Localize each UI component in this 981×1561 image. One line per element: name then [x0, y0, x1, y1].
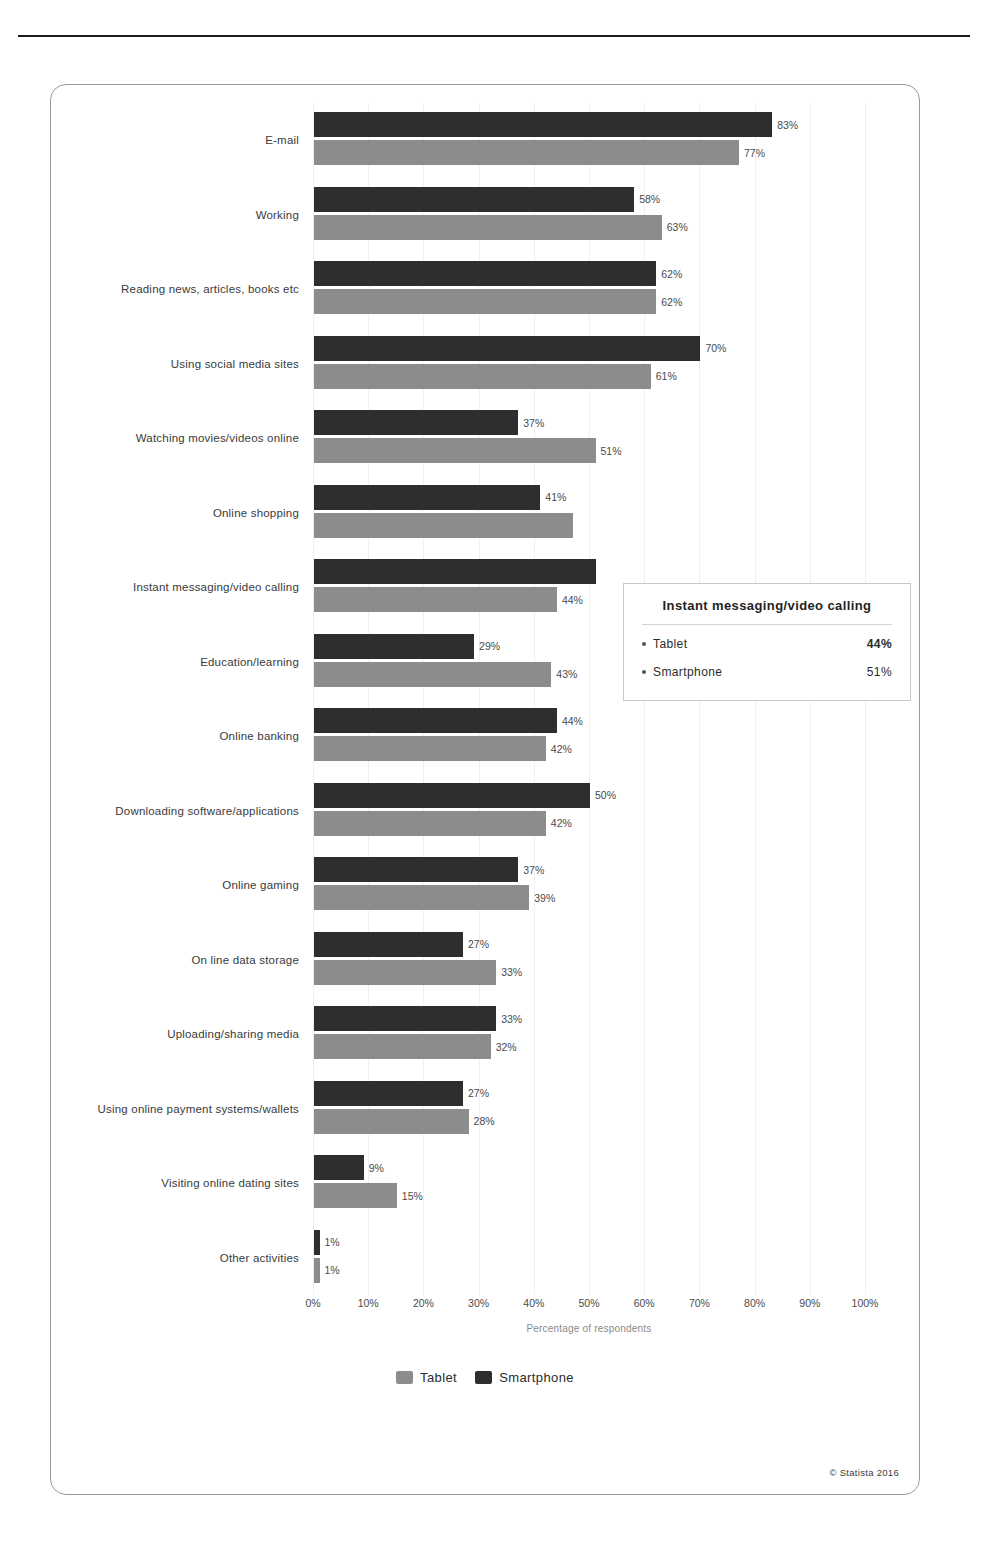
bar-value-label: 1% — [325, 1264, 340, 1276]
tooltip-rows: Tablet44%Smartphone51% — [642, 630, 892, 686]
copyright-notice: © Statista 2016 — [829, 1467, 899, 1478]
bar-value-label: 28% — [474, 1115, 495, 1127]
legend-item[interactable]: Tablet — [396, 1370, 457, 1385]
bar-value-label: 58% — [639, 193, 660, 205]
bar-value-label: 29% — [479, 640, 500, 652]
bar-value-label: 63% — [667, 221, 688, 233]
x-tick-label: 30% — [468, 1297, 489, 1309]
bar-tablet[interactable]: 77% — [314, 140, 739, 165]
bar-tablet[interactable]: 51% — [314, 438, 596, 463]
bar-tablet[interactable] — [314, 513, 573, 538]
bar-smartphone[interactable]: 27% — [314, 932, 463, 957]
bar-tablet[interactable]: 62% — [314, 289, 656, 314]
bar-tablet[interactable]: 42% — [314, 811, 546, 836]
bar-value-label: 44% — [562, 594, 583, 606]
bar-row[interactable]: Online shopping41% — [313, 476, 865, 551]
category-label: Using social media sites — [171, 358, 299, 370]
bar-row[interactable]: E-mail83%77% — [313, 103, 865, 178]
category-label: Education/learning — [200, 656, 299, 668]
bar-row[interactable]: Working58%63% — [313, 178, 865, 253]
bar-value-label: 42% — [551, 743, 572, 755]
bar-value-label: 70% — [705, 342, 726, 354]
bar-row[interactable]: Online banking44%42% — [313, 699, 865, 774]
x-tick-label: 90% — [799, 1297, 820, 1309]
bar-tablet[interactable]: 61% — [314, 364, 651, 389]
bar-row[interactable]: Online gaming37%39% — [313, 848, 865, 923]
bar-smartphone[interactable]: 29% — [314, 634, 474, 659]
bar-value-label: 39% — [534, 892, 555, 904]
bar-row[interactable]: Downloading software/applications50%42% — [313, 774, 865, 849]
bar-row[interactable]: Other activities1%1% — [313, 1221, 865, 1296]
x-tick-label: 100% — [852, 1297, 879, 1309]
bar-smartphone[interactable]: 27% — [314, 1081, 463, 1106]
bar-tablet[interactable]: 39% — [314, 885, 529, 910]
bar-value-label: 43% — [556, 668, 577, 680]
bar-tablet[interactable]: 1% — [314, 1258, 320, 1283]
bar-value-label: 27% — [468, 1087, 489, 1099]
bar-row[interactable]: Uploading/sharing media33%32% — [313, 997, 865, 1072]
bar-tablet[interactable]: 43% — [314, 662, 551, 687]
bar-smartphone[interactable]: 58% — [314, 187, 634, 212]
bar-smartphone[interactable]: 50% — [314, 783, 590, 808]
bar-row[interactable]: On line data storage27%33% — [313, 923, 865, 998]
bar-smartphone[interactable]: 37% — [314, 410, 518, 435]
category-label: E-mail — [265, 134, 299, 146]
bar-smartphone[interactable]: 70% — [314, 336, 700, 361]
tooltip-series-name: Tablet — [642, 637, 687, 651]
bar-tablet[interactable]: 28% — [314, 1109, 469, 1134]
bar-smartphone[interactable] — [314, 559, 596, 584]
category-label: Uploading/sharing media — [167, 1028, 299, 1040]
bar-row[interactable]: Reading news, articles, books etc62%62% — [313, 252, 865, 327]
data-tooltip: Instant messaging/video calling Tablet44… — [623, 583, 911, 701]
bar-row[interactable]: Using social media sites70%61% — [313, 327, 865, 402]
bar-tablet[interactable]: 32% — [314, 1034, 491, 1059]
bar-smartphone[interactable]: 1% — [314, 1230, 320, 1255]
bar-value-label: 51% — [601, 445, 622, 457]
tooltip-title: Instant messaging/video calling — [642, 598, 892, 624]
bar-smartphone[interactable]: 41% — [314, 485, 540, 510]
bar-tablet[interactable]: 44% — [314, 587, 557, 612]
bar-tablet[interactable]: 33% — [314, 960, 496, 985]
category-label: Using online payment systems/wallets — [97, 1103, 299, 1115]
bar-value-label: 27% — [468, 938, 489, 950]
bar-tablet[interactable]: 42% — [314, 736, 546, 761]
tooltip-row: Tablet44% — [642, 630, 892, 658]
bar-value-label: 33% — [501, 1013, 522, 1025]
bar-value-label: 62% — [661, 268, 682, 280]
bar-smartphone[interactable]: 83% — [314, 112, 772, 137]
bullet-icon — [642, 670, 646, 674]
header-divider — [18, 35, 970, 37]
bullet-icon — [642, 642, 646, 646]
x-tick-label: 0% — [305, 1297, 320, 1309]
tooltip-series-label: Smartphone — [653, 665, 722, 679]
bar-value-label: 9% — [369, 1162, 384, 1174]
chart-card: E-mail83%77%Working58%63%Reading news, a… — [50, 84, 920, 1495]
category-label: Online banking — [219, 730, 299, 742]
category-label: Working — [256, 209, 299, 221]
category-label: Visiting online dating sites — [161, 1177, 299, 1189]
bar-value-label: 1% — [325, 1236, 340, 1248]
bar-value-label: 33% — [501, 966, 522, 978]
bar-smartphone[interactable]: 33% — [314, 1006, 496, 1031]
tooltip-series-value: 44% — [867, 637, 892, 651]
bar-row[interactable]: Watching movies/videos online37%51% — [313, 401, 865, 476]
legend-item[interactable]: Smartphone — [475, 1370, 574, 1385]
x-tick-label: 60% — [634, 1297, 655, 1309]
category-label: Online gaming — [222, 879, 299, 891]
bar-tablet[interactable]: 15% — [314, 1183, 397, 1208]
bar-smartphone[interactable]: 9% — [314, 1155, 364, 1180]
bar-value-label: 37% — [523, 864, 544, 876]
bar-tablet[interactable]: 63% — [314, 215, 662, 240]
bar-smartphone[interactable]: 44% — [314, 708, 557, 733]
category-label: On line data storage — [191, 954, 299, 966]
bar-smartphone[interactable]: 62% — [314, 261, 656, 286]
category-label: Reading news, articles, books etc — [121, 283, 299, 295]
category-label: Online shopping — [213, 507, 299, 519]
x-tick-label: 70% — [689, 1297, 710, 1309]
legend-swatch-icon — [475, 1371, 492, 1384]
bar-row[interactable]: Visiting online dating sites9%15% — [313, 1146, 865, 1221]
bar-row[interactable]: Using online payment systems/wallets27%2… — [313, 1072, 865, 1147]
bar-smartphone[interactable]: 37% — [314, 857, 518, 882]
legend-label: Smartphone — [499, 1370, 574, 1385]
legend-label: Tablet — [420, 1370, 457, 1385]
